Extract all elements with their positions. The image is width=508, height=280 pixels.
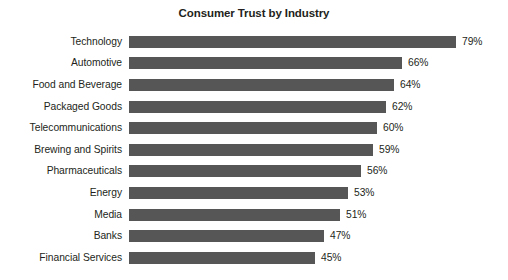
bar-and-value: 56% <box>129 161 387 183</box>
bar-and-value: 64% <box>129 74 420 96</box>
category-label: Banks <box>0 230 122 242</box>
value-label: 47% <box>330 230 350 242</box>
value-label: 64% <box>400 79 420 91</box>
category-label: Technology <box>0 36 122 48</box>
bar <box>129 230 324 242</box>
bar-row: Technology79% <box>0 31 508 53</box>
bar <box>129 252 315 264</box>
value-label: 60% <box>383 122 403 134</box>
bar <box>129 101 386 113</box>
value-label: 62% <box>392 101 412 113</box>
bar-and-value: 60% <box>129 117 403 139</box>
bar-row: Food and Beverage64% <box>0 74 508 96</box>
category-label: Financial Services <box>0 252 122 264</box>
bar-row: Brewing and Spirits59% <box>0 139 508 161</box>
bar-row: Media51% <box>0 204 508 226</box>
category-label: Pharmaceuticals <box>0 165 122 177</box>
bar-and-value: 53% <box>129 182 374 204</box>
bar <box>129 165 361 177</box>
category-label: Telecommunications <box>0 122 122 134</box>
bar <box>129 122 377 134</box>
bar-chart: Consumer Trust by Industry Technology79%… <box>0 0 508 280</box>
value-label: 45% <box>321 252 341 264</box>
bar-and-value: 62% <box>129 96 412 118</box>
bar-row: Packaged Goods62% <box>0 96 508 118</box>
category-label: Media <box>0 209 122 221</box>
bar-row: Telecommunications60% <box>0 117 508 139</box>
bar-and-value: 66% <box>129 53 428 75</box>
bar <box>129 144 373 156</box>
bar-and-value: 47% <box>129 225 350 247</box>
category-label: Packaged Goods <box>0 101 122 113</box>
value-label: 56% <box>367 165 387 177</box>
bar <box>129 79 394 91</box>
bar-and-value: 59% <box>129 139 399 161</box>
category-label: Brewing and Spirits <box>0 144 122 156</box>
value-label: 79% <box>462 36 482 48</box>
bar-row: Automotive66% <box>0 53 508 75</box>
bar-row: Financial Services45% <box>0 247 508 269</box>
category-label: Food and Beverage <box>0 79 122 91</box>
bar-row: Energy53% <box>0 182 508 204</box>
value-label: 51% <box>346 209 366 221</box>
bar <box>129 187 348 199</box>
value-label: 53% <box>354 187 374 199</box>
plot-area: Technology79%Automotive66%Food and Bever… <box>0 31 508 273</box>
category-label: Automotive <box>0 57 122 69</box>
bar <box>129 57 402 69</box>
bar-and-value: 51% <box>129 204 366 226</box>
bar <box>129 209 340 221</box>
chart-title: Consumer Trust by Industry <box>0 7 508 19</box>
value-label: 66% <box>408 57 428 69</box>
category-label: Energy <box>0 187 122 199</box>
value-label: 59% <box>379 144 399 156</box>
bar-and-value: 79% <box>129 31 482 53</box>
bar-and-value: 45% <box>129 247 341 269</box>
bar-row: Banks47% <box>0 225 508 247</box>
bar <box>129 36 456 48</box>
bar-row: Pharmaceuticals56% <box>0 161 508 183</box>
